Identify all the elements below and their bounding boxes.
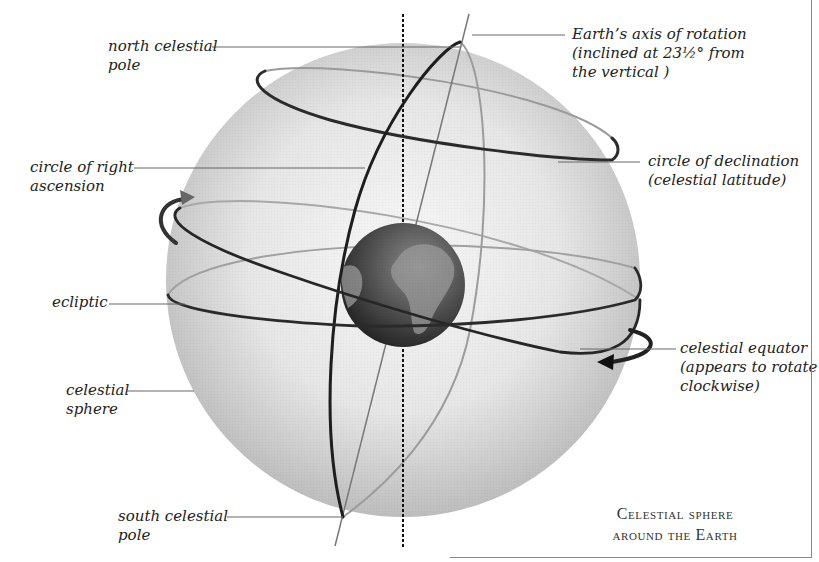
- north-pole-line1: north celestial: [108, 37, 218, 56]
- label-ecliptic: ecliptic: [52, 293, 108, 312]
- south-pole-line2: pole: [118, 526, 228, 545]
- earth-globe: [341, 223, 465, 347]
- celestial-sphere-line2: sphere: [66, 400, 129, 419]
- ecliptic-line1: ecliptic: [52, 293, 108, 312]
- celestial-equator-line2: (appears to rotate: [680, 358, 817, 377]
- frame-border-bottom: [450, 557, 812, 558]
- diagram-caption: Celestial sphere around the Earth: [578, 503, 772, 545]
- celestial-equator-line3: clockwise): [680, 377, 817, 396]
- earth-axis-line1: Earth’s axis of rotation: [572, 25, 747, 44]
- frame-border-right: [811, 0, 812, 558]
- caption-line2: around the Earth: [578, 524, 772, 545]
- label-celestial-equator: celestial equator (appears to rotate clo…: [680, 339, 817, 396]
- label-circle-of-right-ascension: circle of right ascension: [30, 158, 134, 196]
- celestial-equator-line1: celestial equator: [680, 339, 817, 358]
- declination-line1: circle of declination: [648, 152, 799, 171]
- label-earth-axis: Earth’s axis of rotation (inclined at 23…: [572, 25, 747, 82]
- label-circle-of-declination: circle of declination (celestial latitud…: [648, 152, 799, 190]
- celestial-sphere-diagram: Earth’s axis of rotation (inclined at 23…: [0, 0, 819, 562]
- label-north-celestial-pole: north celestial pole: [108, 37, 218, 75]
- declination-line2: (celestial latitude): [648, 171, 799, 190]
- label-south-celestial-pole: south celestial pole: [118, 507, 228, 545]
- earth-axis-line3: the vertical ): [572, 63, 747, 82]
- right-ascension-line2: ascension: [30, 177, 134, 196]
- right-ascension-line1: circle of right: [30, 158, 134, 177]
- diagram-graphic: [0, 0, 819, 562]
- label-celestial-sphere: celestial sphere: [66, 381, 129, 419]
- north-pole-line2: pole: [108, 56, 218, 75]
- earth-axis-line2: (inclined at 23½° from: [572, 44, 747, 63]
- celestial-sphere-line1: celestial: [66, 381, 129, 400]
- caption-line1: Celestial sphere: [578, 503, 772, 524]
- south-pole-line1: south celestial: [118, 507, 228, 526]
